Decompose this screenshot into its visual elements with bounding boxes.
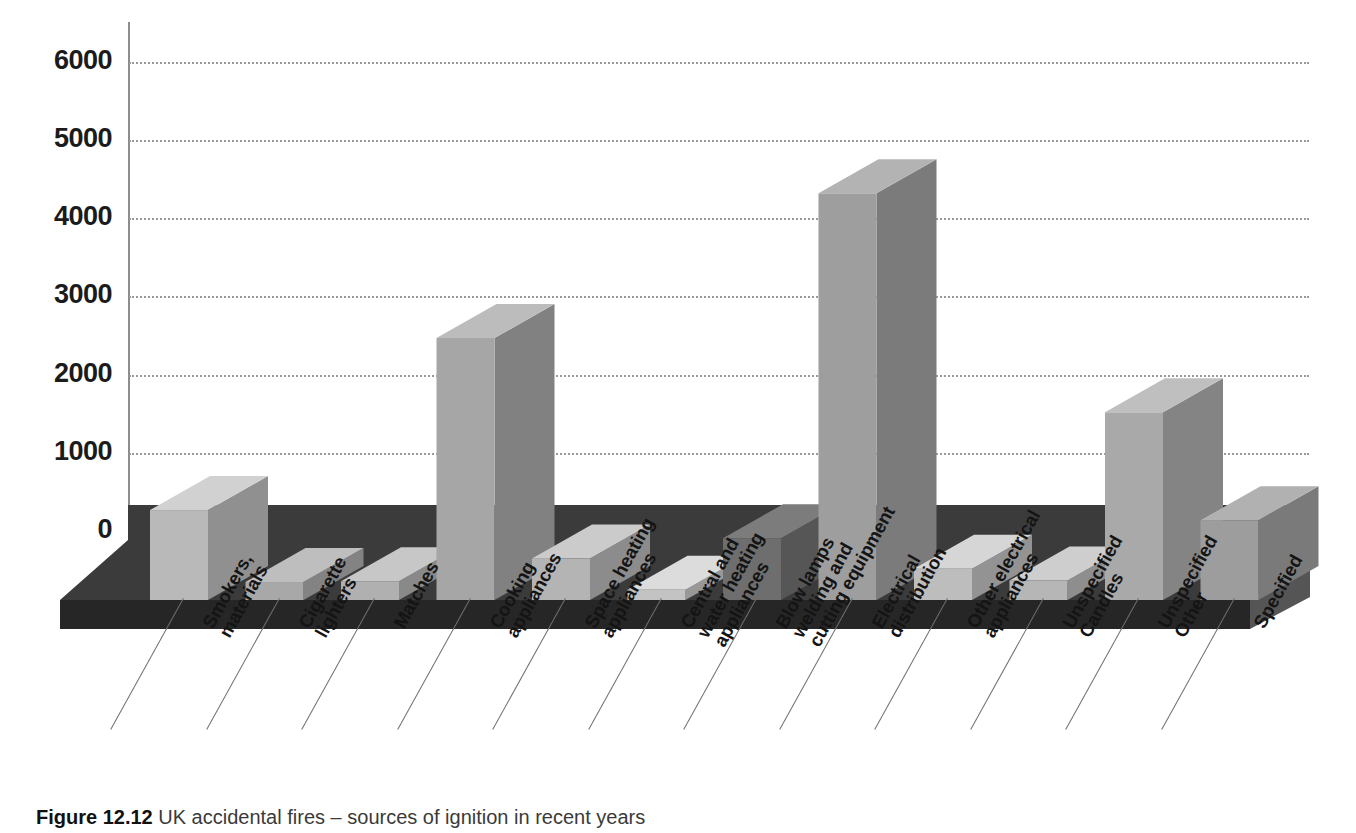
bars-svg bbox=[0, 0, 1356, 640]
x-label-leader-line bbox=[110, 598, 184, 730]
bar-front-face bbox=[150, 510, 208, 600]
figure-caption: Figure 12.12 UK accidental fires – sourc… bbox=[36, 806, 1336, 829]
bars-layer bbox=[0, 0, 1356, 640]
chart-plot-area: 0100020003000400050006000 bbox=[0, 0, 1356, 640]
figure-caption-text: UK accidental fires – sources of ignitio… bbox=[158, 806, 645, 828]
figure-container: 0100020003000400050006000 Smokers, mater… bbox=[0, 0, 1356, 833]
figure-number: Figure 12.12 bbox=[36, 806, 153, 828]
bar-front-face bbox=[437, 338, 495, 600]
x-axis-labels: Smokers, materialsCigarette lightersMatc… bbox=[0, 598, 1356, 808]
